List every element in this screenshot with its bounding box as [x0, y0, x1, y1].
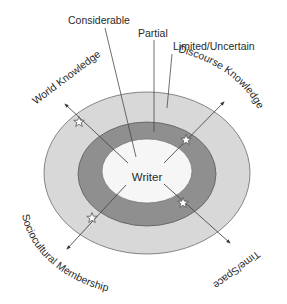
label-partial: Partial [138, 27, 168, 39]
center-label-writer: Writer [132, 171, 163, 183]
axis-label-world-knowledge: World Knowledge [30, 47, 103, 106]
axis-label-time-space: Time/Space [211, 249, 263, 292]
label-considerable: Considerable [68, 14, 130, 26]
writer-knowledge-diagram: Considerable Partial Limited/Uncertain W… [0, 0, 287, 304]
